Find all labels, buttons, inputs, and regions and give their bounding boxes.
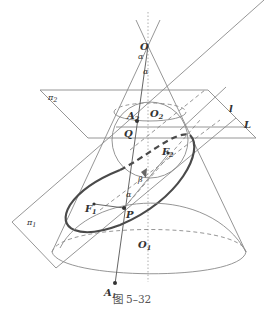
segment-PF1 <box>94 204 124 208</box>
label-F2: F2 <box>161 146 174 159</box>
plane-pi1-line-l <box>100 120 220 210</box>
cone-upper-right <box>148 20 160 46</box>
segment-P-dash <box>124 120 200 208</box>
base-ellipse-front <box>52 252 246 274</box>
plane-pi1-top-edge <box>180 87 226 130</box>
label-Q: Q <box>124 128 133 139</box>
label-alpha-low: α <box>126 190 132 199</box>
point-A1 <box>113 281 117 285</box>
label-O: O <box>140 41 149 52</box>
figure-caption: 图 5–32 <box>0 291 264 306</box>
label-alpha-mid: α <box>143 67 149 76</box>
plane-pi1 <box>12 0 264 222</box>
label-beta: β <box>137 175 143 184</box>
label-alpha-top: α <box>138 52 144 61</box>
label-l: l <box>229 103 233 114</box>
label-O2: O2 <box>150 108 164 121</box>
cone-ellipse-diagram: O α α α π2 π1 A2 O2 Q F2 β F1 P O1 A1 l … <box>0 0 264 310</box>
point-F1 <box>92 202 95 205</box>
label-O1: O1 <box>138 239 151 252</box>
label-L: L <box>243 119 251 130</box>
label-P: P <box>125 209 134 220</box>
label-pi1: π1 <box>26 218 36 229</box>
